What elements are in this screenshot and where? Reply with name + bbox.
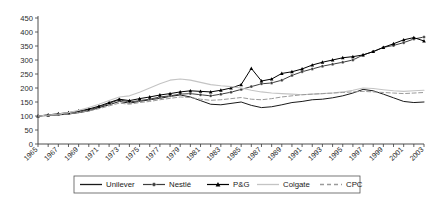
x-axis-tick-label: 1973 [103, 145, 121, 163]
y-axis-tick-label: 200 [20, 84, 33, 93]
series-marker [209, 94, 212, 97]
series-marker [219, 93, 222, 96]
x-axis-tick-label: 1965 [22, 145, 40, 163]
y-axis-tick-label: 50 [25, 126, 33, 135]
x-axis-tick-label: 1993 [306, 145, 324, 163]
x-axis-tick-label: 1991 [286, 145, 304, 163]
x-axis-tick-label: 1997 [347, 145, 365, 163]
series-marker [290, 74, 293, 77]
x-axis-tick-label: 2003 [408, 145, 426, 163]
chart-canvas: 0501001502002503003504004501965196719691… [0, 0, 432, 203]
series-marker [301, 70, 304, 73]
legend-label-pandg: P&G [233, 180, 249, 189]
series-marker [341, 61, 344, 64]
series-marker [250, 67, 254, 70]
y-axis-tick-label: 450 [20, 14, 33, 23]
legend-label-unilever: Unilever [106, 180, 135, 189]
y-axis-tick-label: 300 [20, 56, 33, 65]
series-marker [351, 59, 354, 62]
x-axis-tick-label: 1989 [266, 145, 284, 163]
series-marker [331, 63, 334, 66]
x-axis-tick-label: 1987 [245, 145, 263, 163]
x-axis-tick-label: 1977 [144, 145, 162, 163]
series-marker [270, 81, 273, 84]
legend-label-colgate: Colgate [283, 180, 310, 189]
series-line-colgate [38, 79, 424, 116]
legend-label-nestl: Nestlé [169, 180, 191, 189]
x-axis-tick-label: 1983 [205, 145, 223, 163]
x-axis-tick-label: 2001 [387, 145, 405, 163]
x-axis-tick-label: 1975 [123, 145, 141, 163]
x-axis-tick-label: 1969 [62, 145, 80, 163]
series-line-nestl [38, 37, 424, 116]
x-axis-tick-label: 1995 [326, 145, 344, 163]
series-marker [423, 36, 426, 39]
series-line-pandg [38, 38, 424, 116]
series-marker [230, 91, 233, 94]
series-marker [402, 41, 405, 44]
series-marker [250, 85, 253, 88]
x-axis-tick-label: 1981 [184, 145, 202, 163]
x-axis-tick-label: 1985 [225, 145, 243, 163]
x-axis-tick-label: 1979 [164, 145, 182, 163]
x-axis-tick-label: 1967 [42, 145, 60, 163]
series-marker [189, 92, 192, 95]
y-axis-tick-label: 400 [20, 28, 33, 37]
x-axis-tick-label: 1971 [83, 145, 101, 163]
series-marker [321, 65, 324, 68]
series-marker [260, 82, 263, 85]
legend-label-cpc: CPC [346, 180, 363, 189]
series-marker [280, 79, 283, 82]
series-marker [199, 93, 202, 96]
y-axis-tick-label: 150 [20, 98, 33, 107]
line-chart: 0501001502002503003504004501965196719691… [0, 0, 432, 203]
x-axis-tick-label: 1999 [367, 145, 385, 163]
legend-marker [152, 183, 156, 187]
y-axis-tick-label: 250 [20, 70, 33, 79]
y-axis-tick-label: 100 [20, 112, 33, 121]
y-axis-tick-label: 350 [20, 42, 33, 51]
series-marker [311, 67, 314, 70]
